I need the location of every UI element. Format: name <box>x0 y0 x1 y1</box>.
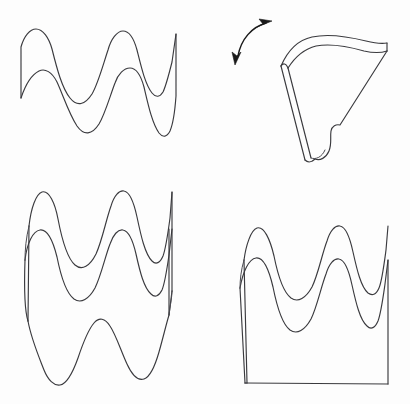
panel-top-right[interactable] <box>222 10 404 175</box>
panel-bottom-right-hitarea[interactable] <box>226 212 406 394</box>
diagram-canvas <box>0 0 410 404</box>
panel-top-left[interactable] <box>8 14 193 159</box>
wavy-surface-diagram <box>0 0 410 404</box>
panel-bottom-left[interactable] <box>12 178 197 396</box>
panel-bottom-right[interactable] <box>226 212 406 394</box>
panel-top-right-hitarea[interactable] <box>222 10 404 175</box>
